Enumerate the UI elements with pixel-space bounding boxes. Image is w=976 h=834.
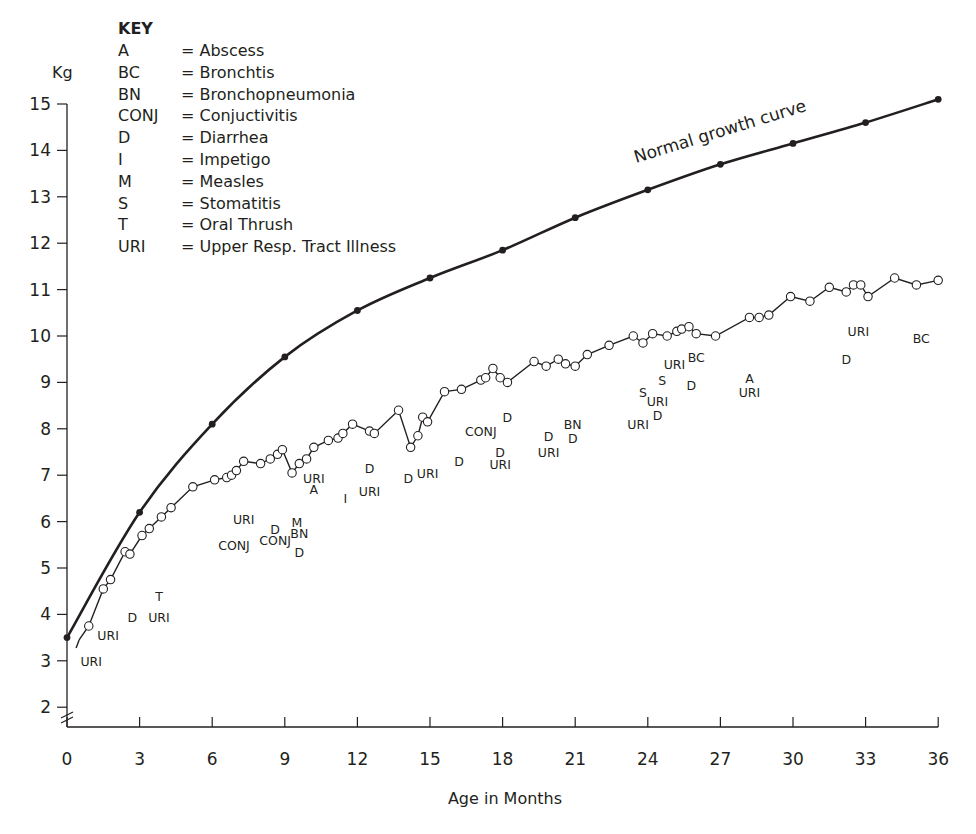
- observed-weight-point: [406, 443, 414, 451]
- y-tick-label: 11: [29, 280, 51, 300]
- observed-weight-point: [745, 313, 753, 321]
- normal-growth-point: [862, 119, 869, 126]
- normal-growth-point: [572, 214, 579, 221]
- y-axis-title: Kg: [52, 63, 73, 82]
- observed-weight-point: [157, 513, 165, 521]
- normal-growth-point: [790, 140, 797, 147]
- observed-weight-point: [370, 429, 378, 437]
- illness-annotation: URI: [148, 610, 170, 625]
- illness-annotation: BC: [688, 350, 705, 365]
- legend-code: CONJ: [118, 106, 158, 125]
- y-tick-label: 13: [29, 187, 51, 207]
- x-tick-label: 15: [419, 749, 441, 769]
- observed-weight-point: [711, 332, 719, 340]
- observed-weight-point: [423, 418, 431, 426]
- x-tick-label: 36: [927, 749, 949, 769]
- observed-weight-point: [912, 281, 920, 289]
- observed-weight-point: [825, 283, 833, 291]
- observed-line-stub: [76, 640, 79, 648]
- normal-growth-point: [136, 509, 143, 516]
- normal-growth-point: [717, 161, 724, 168]
- y-tick-label: 15: [29, 94, 51, 114]
- illness-annotation: A: [745, 371, 754, 386]
- illness-annotation: BC: [913, 331, 930, 346]
- observed-weight-point: [934, 276, 942, 284]
- y-tick-label: 8: [40, 419, 51, 439]
- observed-weight-point: [605, 341, 613, 349]
- x-tick-label: 9: [279, 749, 290, 769]
- observed-weight-point: [685, 323, 693, 331]
- normal-growth-point: [281, 353, 288, 360]
- normal-growth-point: [499, 247, 506, 254]
- illness-annotation: URI: [538, 445, 560, 460]
- y-tick-label: 9: [40, 372, 51, 392]
- observed-weight-point: [440, 387, 448, 395]
- illness-annotation: URI: [848, 324, 870, 339]
- observed-weight-point: [648, 329, 656, 337]
- normal-growth-point: [935, 96, 942, 103]
- illness-annotation: BN: [564, 417, 582, 432]
- observed-weight-point: [571, 362, 579, 370]
- observed-weight-point: [138, 531, 146, 539]
- illness-annotations: URIURIDURITURICONJDCONJMBNDURIAIDURIDURI…: [80, 324, 930, 668]
- illness-annotation: URI: [97, 628, 119, 643]
- observed-weight-point: [692, 329, 700, 337]
- y-tick-label: 7: [40, 465, 51, 485]
- observed-weight-point: [126, 550, 134, 558]
- observed-weight-point: [663, 332, 671, 340]
- illness-annotation: D: [403, 471, 413, 486]
- y-tick-label: 2: [40, 697, 51, 717]
- illness-annotation: URI: [359, 484, 381, 499]
- x-tick-label: 33: [855, 749, 877, 769]
- illness-annotation: URI: [739, 385, 761, 400]
- observed-weight-point: [256, 459, 264, 467]
- observed-weight-point: [890, 274, 898, 282]
- illness-annotation: D: [294, 545, 304, 560]
- observed-weight-point: [765, 311, 773, 319]
- normal-growth-point: [354, 307, 361, 314]
- observed-weight-point: [583, 350, 591, 358]
- observed-weight-point: [302, 455, 310, 463]
- legend-meaning: = Bronchopneumonia: [181, 85, 355, 104]
- illness-annotation: D: [687, 378, 697, 393]
- illness-annotation: URI: [489, 457, 511, 472]
- observed-weight-point: [324, 436, 332, 444]
- illness-annotation: D: [365, 461, 375, 476]
- illness-annotation: D: [544, 429, 554, 444]
- illness-annotation: D: [653, 408, 663, 423]
- x-tick-label: 12: [347, 749, 369, 769]
- observed-weight-point: [85, 622, 93, 630]
- y-tick-label: 12: [29, 233, 51, 253]
- observed-weight-point: [348, 420, 356, 428]
- observed-weight-point: [310, 443, 318, 451]
- illness-annotation: CONJ: [465, 424, 497, 439]
- observed-weight-point: [639, 339, 647, 347]
- observed-weight-point: [278, 445, 286, 453]
- y-tick-label: 6: [40, 512, 51, 532]
- observed-weight-point: [503, 378, 511, 386]
- illness-annotation: URI: [664, 357, 686, 372]
- observed-weight-point: [99, 585, 107, 593]
- y-tick-label: 5: [40, 558, 51, 578]
- observed-weight-point: [561, 360, 569, 368]
- legend-code: M: [118, 172, 132, 191]
- observed-weight-point: [210, 476, 218, 484]
- illness-annotation: URI: [233, 512, 255, 527]
- observed-weight-point: [786, 292, 794, 300]
- y-tick-label: 10: [29, 326, 51, 346]
- illness-annotation: URI: [80, 654, 102, 669]
- normal-growth-point: [64, 634, 71, 641]
- legend-code: I: [118, 150, 123, 169]
- observed-weight-point: [288, 469, 296, 477]
- observed-weight-point: [806, 297, 814, 305]
- legend-code: S: [118, 194, 128, 213]
- legend-title: KEY: [118, 19, 153, 38]
- x-axis-title: Age in Months: [448, 789, 562, 808]
- legend-meaning: = Oral Thrush: [181, 215, 293, 234]
- illness-annotation: S: [658, 373, 666, 388]
- x-tick-label: 3: [134, 749, 145, 769]
- illness-annotation: CONJ: [259, 533, 291, 548]
- illness-annotation: D: [503, 410, 513, 425]
- legend-meaning: = Conjuctivitis: [181, 106, 298, 125]
- observed-weight-point: [457, 385, 465, 393]
